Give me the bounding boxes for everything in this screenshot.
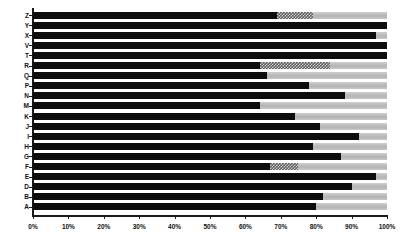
bar-segment-series-1[interactable]: [33, 203, 316, 210]
x-axis-tick: [33, 215, 34, 219]
bar-segment-series-1[interactable]: [33, 102, 260, 109]
bar-row[interactable]: [33, 72, 387, 79]
y-axis-label-a: A: [3, 203, 29, 210]
bar-segment-series-3[interactable]: [313, 12, 387, 19]
bar-row[interactable]: [33, 102, 387, 109]
bar-segment-series-3[interactable]: [330, 62, 387, 69]
y-axis-labels: ZYXVTRQPNMKJIHGFEDBA: [0, 10, 29, 212]
bar-row[interactable]: [33, 32, 387, 39]
bar-segment-series-1[interactable]: [33, 133, 359, 140]
bar-segment-series-3[interactable]: [267, 72, 387, 79]
bar-segment-series-1[interactable]: [33, 113, 295, 120]
x-axis-label-90: 90%: [335, 222, 369, 231]
bar-segment-series-1[interactable]: [33, 143, 313, 150]
stacked-bar-chart: ZYXVTRQPNMKJIHGFEDBA 0%10%20%30%40%50%60…: [0, 0, 406, 247]
x-axis-label-60: 60%: [228, 222, 262, 231]
bar-row[interactable]: [33, 12, 387, 19]
plot-area: [33, 10, 387, 212]
x-axis-tick: [281, 215, 282, 219]
bar-row[interactable]: [33, 173, 387, 180]
bar-segment-series-1[interactable]: [33, 72, 267, 79]
bar-segment-series-1[interactable]: [33, 183, 352, 190]
bar-row[interactable]: [33, 82, 387, 89]
x-axis-label-0: 0%: [16, 222, 50, 231]
x-axis-label-70: 70%: [264, 222, 298, 231]
x-axis-label-50: 50%: [193, 222, 227, 231]
bar-segment-series-1[interactable]: [33, 22, 387, 29]
bar-segment-series-1[interactable]: [33, 123, 320, 130]
x-axis-label-10: 10%: [51, 222, 85, 231]
bar-segment-series-2[interactable]: [277, 12, 312, 19]
x-axis-label-30: 30%: [122, 222, 156, 231]
x-axis-tick: [139, 215, 140, 219]
bar-row[interactable]: [33, 193, 387, 200]
bar-segment-series-3[interactable]: [359, 133, 387, 140]
y-axis-label-p: P: [3, 82, 29, 89]
bar-segment-series-1[interactable]: [33, 163, 270, 170]
bar-segment-series-2[interactable]: [260, 62, 331, 69]
bar-row[interactable]: [33, 153, 387, 160]
bar-segment-series-3[interactable]: [320, 123, 387, 130]
bar-segment-series-3[interactable]: [313, 143, 387, 150]
bar-row[interactable]: [33, 92, 387, 99]
bar-row[interactable]: [33, 183, 387, 190]
x-axis-label-40: 40%: [158, 222, 192, 231]
y-axis-label-f: F: [3, 163, 29, 170]
y-axis-label-k: K: [3, 113, 29, 120]
bar-row[interactable]: [33, 123, 387, 130]
bar-segment-series-3[interactable]: [352, 183, 387, 190]
y-axis-label-z: Z: [3, 12, 29, 19]
bar-segment-series-3[interactable]: [316, 203, 387, 210]
y-axis-label-y: Y: [3, 22, 29, 29]
bar-row[interactable]: [33, 42, 387, 49]
y-axis-label-n: N: [3, 92, 29, 99]
bar-segment-series-3[interactable]: [345, 92, 387, 99]
bar-segment-series-1[interactable]: [33, 12, 277, 19]
x-axis-tick: [104, 215, 105, 219]
bar-segment-series-1[interactable]: [33, 82, 309, 89]
bar-segment-series-3[interactable]: [376, 32, 387, 39]
bar-segment-series-2[interactable]: [270, 163, 298, 170]
y-axis-label-x: X: [3, 32, 29, 39]
bar-row[interactable]: [33, 133, 387, 140]
bar-row[interactable]: [33, 203, 387, 210]
bar-segment-series-3[interactable]: [341, 153, 387, 160]
y-axis-label-q: Q: [3, 72, 29, 79]
y-axis-label-h: H: [3, 143, 29, 150]
x-axis-tick: [245, 215, 246, 219]
bar-row[interactable]: [33, 22, 387, 29]
bar-row[interactable]: [33, 62, 387, 69]
x-axis-tick: [175, 215, 176, 219]
bar-segment-series-3[interactable]: [323, 193, 387, 200]
bar-segment-series-3[interactable]: [295, 113, 387, 120]
bar-segment-series-1[interactable]: [33, 62, 260, 69]
x-axis-tick: [68, 215, 69, 219]
bar-segment-series-1[interactable]: [33, 173, 376, 180]
bar-row[interactable]: [33, 143, 387, 150]
bar-row[interactable]: [33, 52, 387, 59]
bar-segment-series-1[interactable]: [33, 193, 323, 200]
x-axis-tick: [352, 215, 353, 219]
bar-segment-series-3[interactable]: [260, 102, 387, 109]
bar-segment-series-1[interactable]: [33, 32, 376, 39]
bar-segment-series-3[interactable]: [376, 173, 387, 180]
bar-segment-series-3[interactable]: [298, 163, 387, 170]
bar-segment-series-1[interactable]: [33, 92, 345, 99]
y-axis-label-v: V: [3, 42, 29, 49]
x-axis-tick: [387, 215, 388, 219]
y-axis-label-j: J: [3, 123, 29, 130]
x-axis-tick: [210, 215, 211, 219]
bar-segment-series-3[interactable]: [309, 82, 387, 89]
bar-segment-series-1[interactable]: [33, 42, 387, 49]
y-axis-label-e: E: [3, 173, 29, 180]
y-axis-label-t: T: [3, 52, 29, 59]
y-axis-label-i: I: [3, 133, 29, 140]
bar-row[interactable]: [33, 113, 387, 120]
x-axis-label-80: 80%: [299, 222, 333, 231]
y-axis-label-b: B: [3, 193, 29, 200]
x-axis-label-100: 100%: [370, 222, 404, 231]
bar-segment-series-1[interactable]: [33, 153, 341, 160]
bar-row[interactable]: [33, 163, 387, 170]
bar-segment-series-1[interactable]: [33, 52, 387, 59]
y-axis-label-g: G: [3, 153, 29, 160]
